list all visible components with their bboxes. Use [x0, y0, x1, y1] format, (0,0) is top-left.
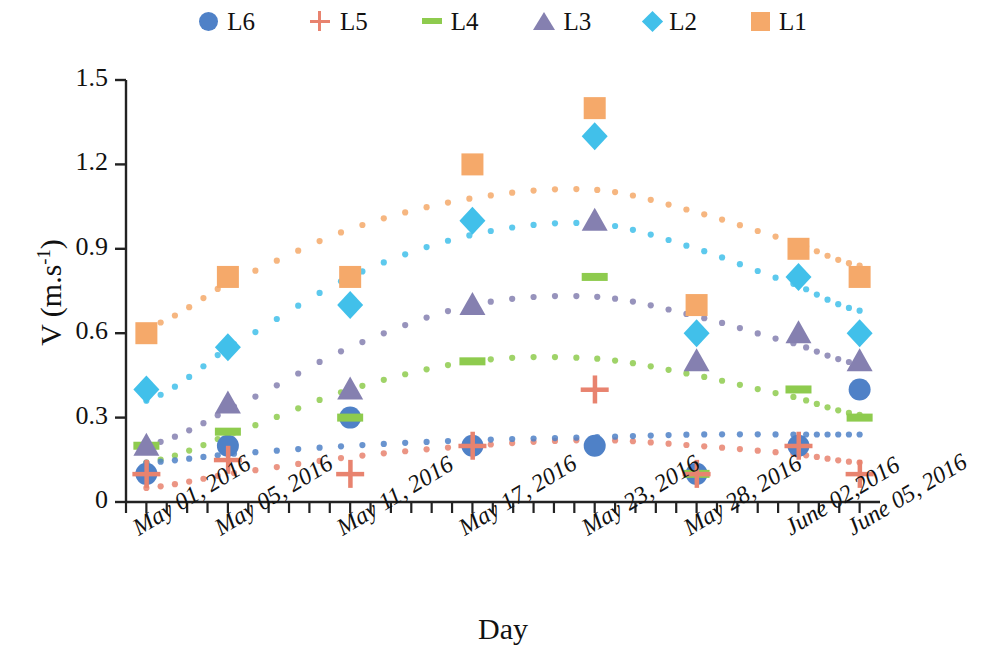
data-point-l5-0 [132, 460, 160, 488]
trend-dot [359, 339, 365, 345]
data-point-l1-2 [339, 266, 361, 288]
trend-dot [552, 220, 558, 226]
trend-dot [772, 335, 778, 341]
trend-dot [719, 254, 725, 260]
trend-dot [402, 371, 408, 377]
y-axis-tick-label: 0.9 [30, 232, 108, 262]
trend-dot [295, 405, 301, 411]
y-axis-tick-label: 1.5 [30, 63, 108, 93]
trend-dot [274, 258, 280, 264]
trend-dot [803, 397, 809, 403]
trendline-l4 [143, 354, 862, 466]
trend-dot [772, 449, 778, 455]
data-point-l4-3 [459, 357, 485, 365]
trend-dot [530, 187, 536, 193]
trend-dot [359, 383, 365, 389]
data-point-l5-3 [458, 432, 486, 460]
trend-dot [719, 320, 725, 326]
trend-dot [814, 431, 820, 437]
data-point-l4-7 [847, 414, 873, 422]
trend-dot [402, 209, 408, 215]
trend-dot [755, 448, 761, 454]
trend-dot [803, 344, 809, 350]
trend-dot [552, 354, 558, 360]
data-point-l2-7 [847, 319, 873, 347]
trend-dot [814, 349, 820, 355]
trend-dot [630, 227, 636, 233]
trend-dot [737, 382, 743, 388]
trend-dot [755, 268, 761, 274]
trend-dot [423, 314, 429, 320]
trend-dot [274, 316, 280, 322]
trend-dot [172, 434, 178, 440]
series-l4 [133, 273, 872, 478]
trend-dot [402, 440, 408, 446]
trend-dot [846, 431, 852, 437]
trend-dot [423, 446, 429, 452]
trend-dot [530, 435, 536, 441]
trend-dot [665, 306, 671, 312]
trend-dot [701, 248, 707, 254]
trendline-l2 [143, 220, 862, 404]
trend-dot [552, 435, 558, 441]
trend-dot [835, 301, 841, 307]
trend-dot [737, 446, 743, 452]
data-point-l6-4 [584, 435, 606, 457]
trend-dot [186, 304, 192, 310]
trend-dot [552, 186, 558, 192]
trend-dot [172, 457, 178, 463]
trend-dot [488, 192, 494, 198]
trend-dot [612, 223, 618, 229]
trend-dot [755, 431, 761, 437]
trend-dot [803, 286, 809, 292]
trend-dot [381, 259, 387, 265]
trend-dot [814, 401, 820, 407]
trend-dot [594, 187, 600, 193]
trend-dot [683, 432, 689, 438]
data-point-l2-0 [133, 375, 159, 403]
data-point-l1-4 [584, 97, 606, 119]
trend-dot [381, 215, 387, 221]
data-point-l1-5 [686, 294, 708, 316]
trend-dot [573, 293, 579, 299]
trend-dot [359, 453, 365, 459]
trend-dot [172, 384, 178, 390]
trend-dot [835, 431, 841, 437]
trend-dot [295, 248, 301, 254]
trendline-l3 [143, 293, 862, 449]
data-point-l2-5 [684, 319, 710, 347]
trend-dot [200, 295, 206, 301]
trend-dot [665, 432, 671, 438]
trend-dot [338, 443, 344, 449]
trend-dot [423, 439, 429, 445]
trend-dot [648, 302, 654, 308]
trend-dot [824, 456, 830, 462]
trend-dot [835, 407, 841, 413]
trend-dot [158, 459, 164, 465]
trend-dot [772, 431, 778, 437]
trend-dot [594, 294, 600, 300]
trend-dot [252, 329, 258, 335]
trend-dot [683, 442, 689, 448]
trend-dot [630, 192, 636, 198]
trend-dot [719, 445, 725, 451]
trend-dot [701, 211, 707, 217]
trend-dot [381, 377, 387, 383]
data-point-l1-7 [849, 266, 871, 288]
trend-dot [488, 436, 494, 442]
trend-dot [701, 374, 707, 380]
trend-dot [648, 197, 654, 203]
trend-dot [295, 303, 301, 309]
series-l3 [133, 208, 872, 456]
trend-dot [573, 186, 579, 192]
trend-dot [200, 363, 206, 369]
trend-dot [423, 244, 429, 250]
y-axis-tick-label: 0 [30, 485, 108, 515]
trend-dot [814, 454, 820, 460]
trend-dot [186, 374, 192, 380]
trend-dot [846, 305, 852, 311]
trend-dot [252, 393, 258, 399]
data-point-l1-6 [787, 238, 809, 260]
trend-dot [857, 308, 863, 314]
data-point-l3-6 [785, 320, 811, 343]
